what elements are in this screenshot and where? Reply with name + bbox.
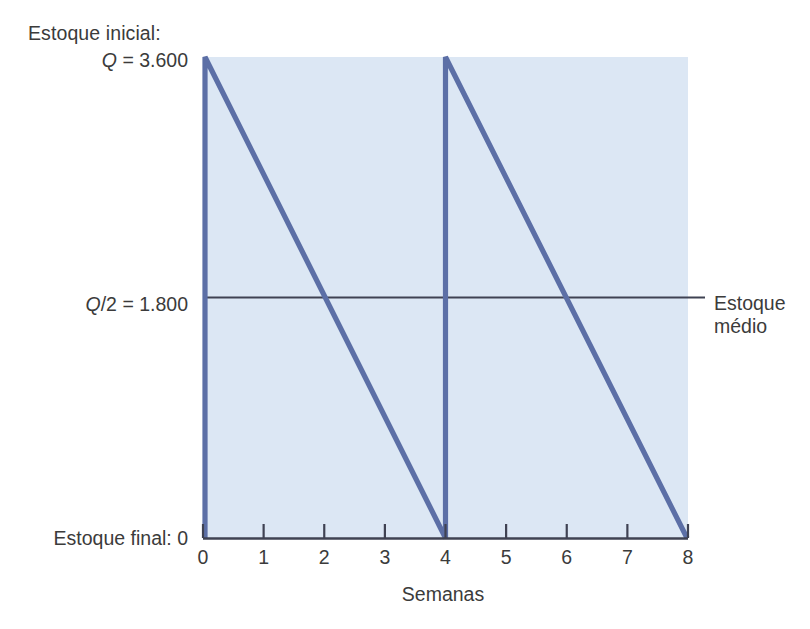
x-tick-label-5: 5 [486,546,526,569]
x-tick-label-2: 2 [304,546,344,569]
final-inventory-value: Estoque final: 0 [28,527,188,550]
x-tick-label-0: 0 [183,546,223,569]
x-tick-label-1: 1 [244,546,284,569]
average-inventory-value: Q/2 = 1.800 [28,293,188,316]
average-inventory-annotation: Estoque médio [714,292,786,338]
average-inventory-annotation-line1: Estoque [714,292,786,315]
initial-inventory-value: Q = 3.600 [28,49,188,72]
x-tick-label-3: 3 [365,546,405,569]
initial-inventory-symbol: Q [102,49,117,71]
x-axis-title-text: Semanas [402,583,484,606]
x-axis-title: Semanas [0,583,810,606]
x-tick-label-4: 4 [426,546,466,569]
x-tick-label-7: 7 [607,546,647,569]
initial-inventory-amount: = 3.600 [117,49,188,71]
average-inventory-symbol: Q [86,293,101,315]
average-inventory-amount: /2 = 1.800 [101,293,188,315]
x-tick-label-6: 6 [547,546,587,569]
initial-inventory-title: Estoque inicial: [28,22,161,45]
average-inventory-annotation-line2: médio [714,315,786,338]
x-tick-label-8: 8 [668,546,708,569]
inventory-sawtooth-figure: Estoque inicial: Q = 3.600 Q/2 = 1.800 E… [0,0,810,629]
